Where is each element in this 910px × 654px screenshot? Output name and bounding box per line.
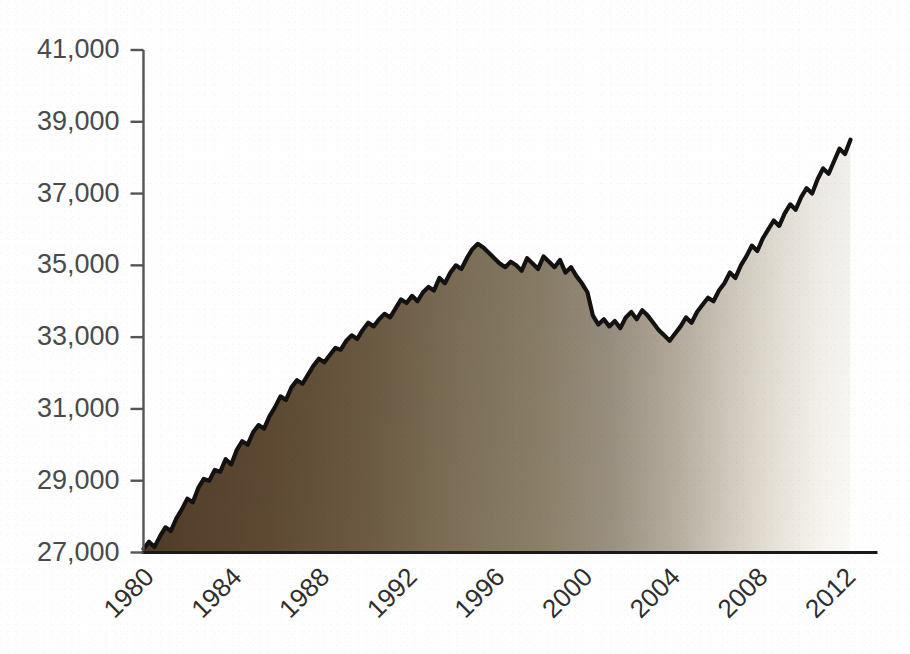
y-tick-label: 27,000 xyxy=(37,537,120,567)
y-tick-label: 39,000 xyxy=(37,106,120,136)
x-tick-label: 1984 xyxy=(185,562,247,624)
y-tick-label: 35,000 xyxy=(37,249,120,279)
x-tick-label: 2008 xyxy=(711,562,773,624)
y-tick-label: 41,000 xyxy=(37,34,120,64)
x-tick-label: 1996 xyxy=(448,562,510,624)
y-tick-label: 29,000 xyxy=(37,465,120,495)
y-tick-label: 33,000 xyxy=(37,321,120,351)
x-tick-label: 1980 xyxy=(98,562,160,624)
y-tick-label: 37,000 xyxy=(37,178,120,208)
x-tick-label: 2004 xyxy=(624,562,686,624)
y-tick-labels: 41,00039,00037,00035,00033,00031,00029,0… xyxy=(37,34,120,567)
y-tick-marks xyxy=(131,50,144,553)
x-tick-label: 2000 xyxy=(536,562,598,624)
x-tick-labels: 198019841988199219962000200420082012 xyxy=(98,562,862,624)
area-fill-shading xyxy=(144,140,851,553)
x-tick-label: 1988 xyxy=(273,562,335,624)
chart-container: 41,00039,00037,00035,00033,00031,00029,0… xyxy=(0,0,910,654)
x-tick-label: 1992 xyxy=(361,562,423,624)
x-tick-label: 2012 xyxy=(799,562,861,624)
area-chart: 41,00039,00037,00035,00033,00031,00029,0… xyxy=(0,0,910,654)
y-tick-label: 31,000 xyxy=(37,393,120,423)
